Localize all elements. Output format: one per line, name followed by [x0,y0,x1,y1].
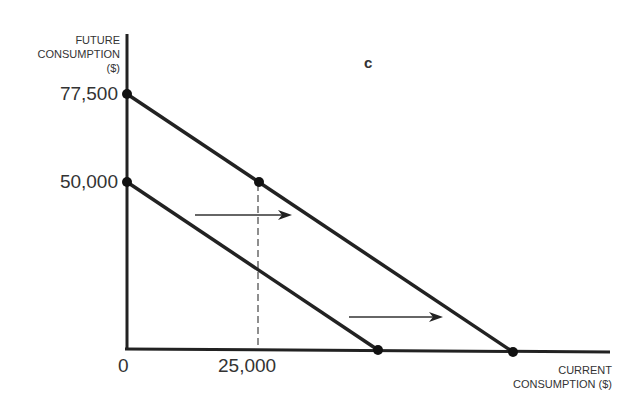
x-axis [125,349,610,352]
point-shifted-x-intercept [508,347,518,357]
panel-label: c [364,54,372,71]
y-tick-50000: 50,000 [60,171,118,193]
x-tick-25000: 25,000 [218,355,276,377]
point-original-x-intercept [373,345,383,355]
point-y-77500 [122,89,132,99]
shifted-budget-line [127,94,513,352]
y-axis-label-line2: CONSUMPTION [38,47,121,61]
shift-arrow-lower [349,312,443,322]
original-budget-line [127,182,378,350]
x-axis-label-line2: CONSUMPTION ($) [513,377,612,391]
x-axis-label-line1: CURRENT [513,363,612,377]
y-axis-label: FUTURE CONSUMPTION ($) [38,33,121,75]
y-tick-77500: 77,500 [60,83,118,105]
point-y-50000 [122,177,132,187]
x-tick-0: 0 [118,355,129,377]
y-axis-label-line3: ($) [38,61,121,75]
y-axis-label-line1: FUTURE [38,33,121,47]
shift-arrow-upper [195,210,292,220]
point-25000-50000 [254,177,264,187]
x-axis-label: CURRENT CONSUMPTION ($) [513,363,612,391]
